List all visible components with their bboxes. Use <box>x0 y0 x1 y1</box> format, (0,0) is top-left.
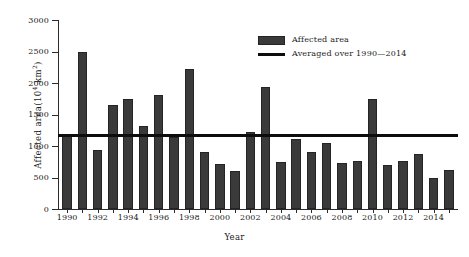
bar-2009 <box>353 161 362 209</box>
y-axis-title-exponent-km: 2 <box>31 65 38 69</box>
y-tick-label-0: 0 <box>44 206 49 214</box>
x-tick-label-2014: 2014 <box>423 214 444 222</box>
bar-1995 <box>139 126 148 209</box>
x-tick-2005 <box>296 209 297 213</box>
legend-line-swatch-icon <box>258 53 285 56</box>
legend-item-average: Averaged over 1990—2014 <box>258 47 407 61</box>
x-tick-label-2010: 2010 <box>362 214 383 222</box>
bar-1998 <box>185 69 194 209</box>
bar-2005 <box>291 139 300 209</box>
bar-1997 <box>169 137 178 209</box>
bar-2013 <box>414 154 423 209</box>
x-tick-label-1998: 1998 <box>179 214 200 222</box>
x-tick-1997 <box>174 209 175 213</box>
y-axis-line <box>58 20 59 210</box>
y-tick-3000: 3000 <box>52 20 58 21</box>
y-tick-label-2000: 2000 <box>28 80 49 88</box>
x-tick-2011 <box>388 209 389 213</box>
y-tick-0: 0 <box>52 209 58 210</box>
x-tick-label-2006: 2006 <box>301 214 322 222</box>
x-tick-label-2008: 2008 <box>332 214 353 222</box>
y-tick-2500: 2500 <box>52 52 58 53</box>
bar-2008 <box>337 163 346 209</box>
bar-2014 <box>429 178 438 209</box>
y-axis-title-base: Affected area(10 <box>33 90 43 168</box>
y-tick-label-500: 500 <box>33 174 49 182</box>
x-tick-2001 <box>235 209 236 213</box>
bar-2006 <box>307 152 316 209</box>
x-tick-label-1992: 1992 <box>87 214 108 222</box>
y-tick-1500: 1500 <box>52 115 58 116</box>
legend-label-affected-area: Affected area <box>292 36 349 44</box>
bar-2010 <box>368 99 377 209</box>
bar-2001 <box>230 171 239 209</box>
y-tick-2000: 2000 <box>52 83 58 84</box>
y-tick-label-2500: 2500 <box>28 48 49 56</box>
y-tick-500: 500 <box>52 178 58 179</box>
bar-2015 <box>444 170 453 209</box>
bar-1993 <box>108 105 117 209</box>
x-tick-label-1994: 1994 <box>118 214 139 222</box>
bar-2002 <box>246 132 255 209</box>
bar-1991 <box>78 52 87 209</box>
x-axis-title: Year <box>0 232 469 242</box>
bar-1994 <box>123 99 132 209</box>
x-tick-1995 <box>143 209 144 213</box>
bar-2012 <box>398 161 407 209</box>
bar-1990 <box>62 135 71 209</box>
x-tick-label-1996: 1996 <box>148 214 169 222</box>
x-tick-label-2004: 2004 <box>271 214 292 222</box>
x-tick-label-2000: 2000 <box>209 214 230 222</box>
y-tick-label-3000: 3000 <box>28 17 49 25</box>
x-tick-label-2012: 2012 <box>393 214 414 222</box>
legend-item-affected-area: Affected area <box>258 33 407 47</box>
x-tick-2003 <box>266 209 267 213</box>
y-tick-1000: 1000 <box>52 146 58 147</box>
x-tick-1991 <box>82 209 83 213</box>
bar-1999 <box>200 152 209 209</box>
x-tick-2009 <box>357 209 358 213</box>
y-axis-title-container: Affected area(104 km2) <box>10 20 24 210</box>
x-tick-1993 <box>113 209 114 213</box>
affected-area-bar-chart: Affected area(104 km2) 05001000150020002… <box>0 0 469 257</box>
bar-2003 <box>261 87 270 209</box>
y-axis-title-end: ) <box>33 61 43 65</box>
y-tick-label-1000: 1000 <box>28 143 49 151</box>
x-tick-label-1990: 1990 <box>57 214 78 222</box>
x-tick-2007 <box>327 209 328 213</box>
x-tick-2015 <box>449 209 450 213</box>
bar-1996 <box>154 95 163 209</box>
x-tick-2013 <box>418 209 419 213</box>
legend-label-average: Averaged over 1990—2014 <box>292 50 407 58</box>
bar-2011 <box>383 165 392 209</box>
y-tick-label-1500: 1500 <box>28 111 49 119</box>
x-tick-label-2002: 2002 <box>240 214 261 222</box>
x-tick-1999 <box>205 209 206 213</box>
average-reference-line <box>58 134 458 137</box>
bar-1992 <box>93 150 102 209</box>
x-axis-line <box>58 209 458 210</box>
bar-2000 <box>215 164 224 209</box>
chart-legend: Affected area Averaged over 1990—2014 <box>258 33 407 61</box>
bar-2007 <box>322 143 331 209</box>
bar-2004 <box>276 162 285 209</box>
legend-bar-swatch-icon <box>258 36 285 45</box>
